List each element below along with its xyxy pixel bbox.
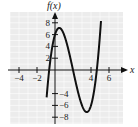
x-axis-label: x: [129, 64, 135, 75]
y-tick-label: 4: [46, 41, 51, 51]
y-tick-label: −8: [59, 112, 69, 122]
y-tick-label: −6: [59, 100, 69, 110]
y-tick-label: 8: [46, 18, 51, 28]
y-axis-label: f(x): [47, 0, 62, 12]
function-graph: −4−2468642−4−6−8 f(x) x: [0, 0, 138, 127]
x-tick-label: −2: [32, 73, 42, 83]
y-tick-label: −4: [59, 89, 69, 99]
x-tick-label: 6: [107, 73, 112, 83]
y-tick-label: 6: [46, 30, 51, 40]
x-tick-label: −4: [14, 73, 24, 83]
x-tick-label: 4: [89, 73, 94, 83]
